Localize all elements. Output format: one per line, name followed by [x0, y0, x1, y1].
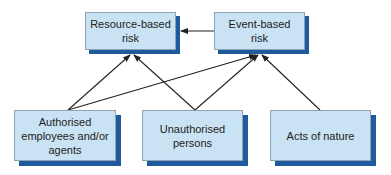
arrow-authorised-to-event: [68, 55, 256, 110]
node-label-line: Event-based: [229, 17, 291, 31]
arrow-unauthorised-to-resource: [134, 55, 195, 110]
node-label-line: Unauthorised: [160, 122, 225, 136]
node-box: Resource-based risk: [85, 12, 176, 50]
node-label-line: Acts of nature: [287, 129, 355, 143]
node-label-line: Resource-based: [90, 17, 171, 31]
node-label-line: agents: [21, 143, 108, 157]
node-label-line: persons: [160, 136, 225, 150]
node-label-line: risk: [229, 31, 291, 45]
node-label-line: Authorised: [21, 115, 108, 129]
node-label-line: risk: [90, 31, 171, 45]
arrow-authorised-to-resource: [68, 55, 130, 110]
node-box: Event-based risk: [214, 12, 305, 50]
node-box: Authorised employees and/or agents: [14, 110, 116, 161]
arrow-nature-to-event: [262, 55, 320, 110]
node-box: Unauthorised persons: [142, 110, 243, 161]
node-label-line: employees and/or: [21, 129, 108, 143]
node-box: Acts of nature: [270, 110, 371, 161]
